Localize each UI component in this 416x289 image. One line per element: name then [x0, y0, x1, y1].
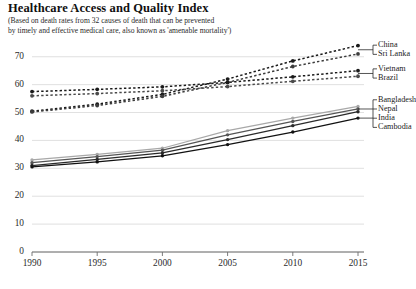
datapoint-sri-lanka-2010 — [291, 65, 295, 69]
legend-brackets — [358, 45, 377, 127]
datapoint-vietnam-2005 — [226, 81, 230, 85]
datapoint-nepal-2005 — [226, 133, 229, 136]
series-lines — [30, 44, 360, 169]
datapoint-china-2005 — [226, 77, 230, 81]
x-axis-label-2015: 2015 — [338, 258, 378, 268]
y-axis-label-50: 50 — [0, 107, 24, 117]
legend-label-vietnam: Vietnam — [378, 64, 406, 73]
datapoint-china-2010 — [291, 59, 295, 63]
series-line-cambodia — [32, 112, 358, 166]
legend-label-sri-lanka: Sri Lanka — [378, 49, 410, 58]
legend-label-nepal: Nepal — [378, 104, 398, 113]
legend-label-brazil: Brazil — [378, 73, 398, 82]
x-axis-label-2005: 2005 — [208, 258, 248, 268]
datapoint-vietnam-2010 — [291, 75, 295, 79]
datapoint-india-2000 — [161, 154, 164, 157]
series-line-bangladesh — [32, 106, 358, 160]
y-axis-label-10: 10 — [0, 218, 24, 228]
series-line-nepal — [32, 109, 358, 163]
y-axis-label-0: 0 — [0, 246, 24, 256]
datapoint-bangladesh-2005 — [226, 129, 229, 132]
y-axis-label-20: 20 — [0, 190, 24, 200]
datapoint-sri-lanka-1995 — [95, 104, 99, 108]
x-tick-marks — [32, 252, 358, 256]
datapoint-vietnam-2015 — [356, 69, 360, 73]
datapoint-vietnam-2000 — [161, 85, 165, 89]
x-axis-label-1990: 1990 — [12, 258, 52, 268]
x-axis-label-2010: 2010 — [273, 258, 313, 268]
datapoint-india-1995 — [96, 160, 99, 163]
datapoint-brazil-1990 — [30, 94, 34, 98]
legend-label-china: China — [378, 40, 398, 49]
datapoint-brazil-1995 — [95, 92, 99, 96]
y-axis-label-60: 60 — [0, 79, 24, 89]
datapoint-cambodia-2015 — [356, 110, 359, 113]
y-axis-label-70: 70 — [0, 51, 24, 61]
y-axis-label-30: 30 — [0, 162, 24, 172]
legend-label-india: India — [378, 113, 395, 122]
datapoint-vietnam-1990 — [30, 90, 34, 94]
series-line-sri-lanka — [32, 54, 358, 112]
legend-label-cambodia: Cambodia — [378, 122, 412, 131]
datapoint-sri-lanka-2015 — [356, 52, 360, 56]
datapoint-vietnam-1995 — [95, 87, 99, 91]
datapoint-brazil-2015 — [356, 74, 360, 78]
datapoint-brazil-2000 — [161, 89, 165, 93]
datapoint-cambodia-2005 — [226, 138, 229, 141]
series-line-china — [32, 46, 358, 112]
datapoint-india-2005 — [226, 143, 229, 146]
datapoint-india-1990 — [30, 165, 33, 168]
series-line-brazil — [32, 76, 358, 96]
datapoint-cambodia-2010 — [291, 124, 294, 127]
gridlines — [32, 57, 364, 252]
datapoint-brazil-2010 — [291, 79, 295, 83]
datapoint-sri-lanka-2000 — [161, 94, 165, 98]
datapoint-china-2015 — [356, 44, 360, 48]
datapoint-brazil-2005 — [226, 85, 230, 89]
x-axis-label-2000: 2000 — [142, 258, 182, 268]
y-axis-label-40: 40 — [0, 134, 24, 144]
legend-label-bangladesh: Bangladesh — [378, 95, 416, 104]
datapoint-bangladesh-2010 — [291, 116, 294, 119]
datapoint-india-2010 — [291, 130, 294, 133]
datapoint-sri-lanka-1990 — [30, 110, 34, 114]
x-axis-label-1995: 1995 — [77, 258, 117, 268]
datapoint-nepal-2010 — [291, 120, 294, 123]
